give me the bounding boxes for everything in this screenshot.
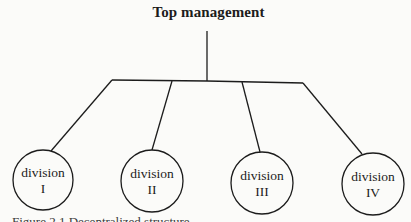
division-2-label-line1: division [121, 166, 183, 182]
division-2-label: division II [121, 166, 183, 198]
division-1-label-line2: I [12, 181, 74, 197]
division-3-label: division III [231, 168, 293, 200]
division-2-label-line2: II [121, 182, 183, 198]
division-3-label-line1: division [231, 168, 293, 184]
branch-line-division-3 [242, 82, 260, 152]
division-4-label-line1: division [342, 169, 404, 185]
branch-line-division-2 [152, 81, 172, 150]
division-4-label-line2: IV [342, 185, 404, 201]
branch-line-division-4 [303, 83, 362, 154]
figure-caption: Figure 2.1 Decentralized structure [12, 214, 190, 222]
org-chart-diagram: Top management division I division II di… [0, 0, 411, 222]
division-1-label-line1: division [12, 165, 74, 181]
branch-line-division-1 [51, 80, 112, 151]
division-3-label-line2: III [231, 184, 293, 200]
division-1-label: division I [12, 165, 74, 197]
root-node-label: Top management [0, 4, 411, 21]
branch-bar [112, 80, 303, 83]
division-4-label: division IV [342, 169, 404, 201]
